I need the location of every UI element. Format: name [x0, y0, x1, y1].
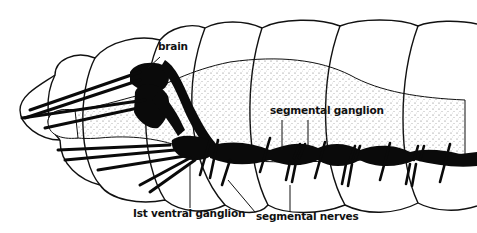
label-brain: brain	[158, 40, 188, 52]
label-segmental-nerves: segmental nerves	[256, 210, 359, 222]
label-first-ventral-ganglion: Ist ventral ganglion	[133, 207, 245, 219]
label-segmental-ganglion: segmental ganglion	[270, 104, 384, 116]
earthworm-nervous-system-diagram: brain segmental ganglion Ist ventral gan…	[0, 0, 477, 233]
diagram-drawing	[0, 0, 477, 233]
